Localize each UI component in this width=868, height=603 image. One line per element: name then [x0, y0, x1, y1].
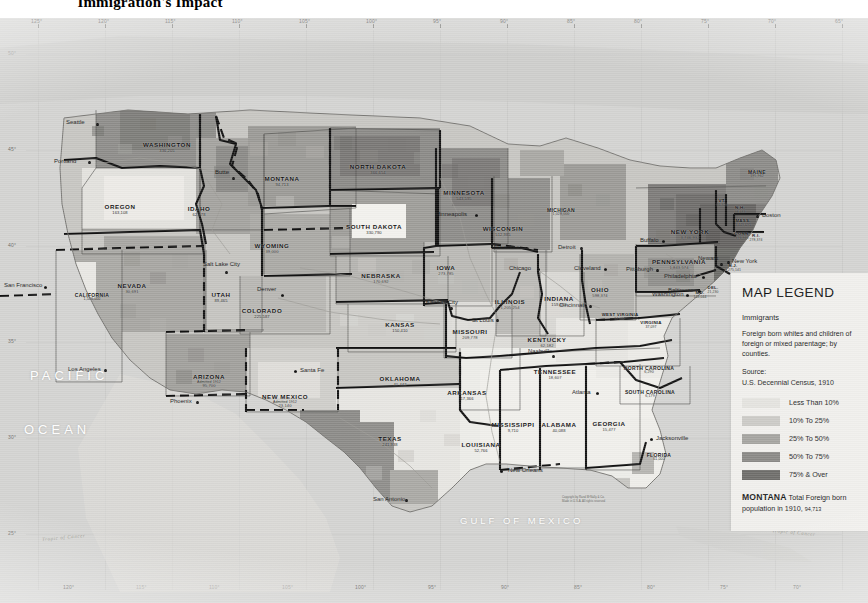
city-label-san-antonio: San Antonio — [373, 496, 405, 502]
city-label-new-orleans: New Orleans — [508, 467, 543, 473]
legend-subject: Immigrants — [742, 313, 857, 322]
legend-footnote: MONTANA Total Foreign born population in… — [742, 491, 857, 515]
state-label-north-carolina: NORTH CAROLINA6,290 — [611, 366, 687, 375]
legend-footnote-number: 94,713 — [805, 506, 822, 512]
legend-color-swatch — [742, 398, 780, 408]
state-foreign-born-population: 170,692 — [343, 280, 419, 284]
state-label-kansas: KANSAS150,410 — [362, 322, 438, 333]
gulf-of-mexico-label: GULF OF MEXICO — [460, 515, 583, 526]
state-foreign-born-population: 62,578 — [161, 213, 237, 217]
city-label-cincinnati: Cincinnati — [559, 302, 585, 308]
state-label-oregon: OREGON163,108 — [82, 204, 158, 215]
state-label-colorado: COLORADO225,587 — [224, 308, 300, 319]
city-label-newark: Newark — [698, 255, 718, 261]
state-foreign-born-population: 366,654 — [340, 171, 416, 175]
state-foreign-born-population: 225,587 — [224, 315, 300, 319]
city-marker-dot — [662, 240, 665, 243]
state-foreign-born-population: 52,766 — [443, 449, 519, 453]
state-label-california: CALIFORNIA1,586,000 — [54, 293, 130, 302]
legend-source-label: Source: — [742, 367, 857, 377]
city-label-new-york: New York — [732, 258, 757, 264]
legend-class-label: 10% To 25% — [789, 416, 829, 425]
state-foreign-born-population: 95,700 — [171, 384, 247, 388]
state-foreign-born-population: 37,097 — [613, 326, 689, 330]
state-foreign-born-population: 209,778 — [432, 336, 508, 340]
city-marker-dot — [698, 290, 701, 293]
city-marker-dot — [44, 286, 47, 289]
city-marker-dot — [475, 214, 478, 217]
state-foreign-born-population: 89,465 — [183, 299, 259, 303]
city-marker-dot — [496, 319, 499, 322]
state-label-n-j: N.J.1,275,141 — [695, 264, 771, 272]
state-label-idaho: IDAHO62,578 — [161, 206, 237, 217]
state-foreign-born-population: 241,938 — [352, 443, 428, 447]
state-foreign-born-population: 6,179 — [612, 395, 688, 399]
city-marker-dot — [650, 438, 653, 441]
state-label-iowa: IOWA273,785 — [408, 265, 484, 276]
state-foreign-born-population: 40,442 — [362, 383, 438, 387]
legend-color-swatch — [742, 416, 780, 426]
state-foreign-born-population: 195,962 — [719, 175, 795, 179]
city-marker-dot — [96, 123, 99, 126]
legend-source-value: U.S. Decennial Census, 1910 — [742, 378, 857, 388]
state-label-arizona: ARIZONAAdmitted 191295,700 — [171, 374, 247, 389]
city-label-butte: Butte — [215, 169, 229, 175]
state-label-michigan: MICHIGAN1,028,000 — [523, 208, 599, 217]
state-label-florida: FLORIDA61,000 — [621, 453, 697, 462]
city-label-milwaukee: Milwaukee — [491, 244, 519, 250]
city-marker-dot — [450, 307, 453, 310]
ocean-label-ocean: OCEAN — [24, 422, 90, 437]
map-plate: 125°120°115°110°105°100°95°90°85°80°75°7… — [0, 18, 868, 603]
state-foreign-born-population: 273,785 — [408, 272, 484, 276]
state-foreign-born-population: 598,374 — [562, 294, 638, 298]
city-marker-dot — [537, 268, 540, 271]
legend-color-swatch — [742, 470, 780, 480]
state-foreign-born-population: 150,410 — [362, 329, 438, 333]
city-label-chicago: Chicago — [509, 265, 531, 271]
legend-source: Source: U.S. Decennial Census, 1910 — [742, 367, 857, 387]
city-marker-dot — [232, 177, 235, 180]
state-foreign-born-population: 1,275,141 — [695, 269, 771, 273]
city-label-denver: Denver — [257, 286, 276, 292]
state-label-ohio: OHIO598,374 — [562, 287, 638, 298]
copyright-line-2: Made in U.S.A. All rights reserved — [562, 500, 605, 504]
city-label-minneapolis: Minneapolis — [435, 211, 467, 217]
state-foreign-born-population: 61,000 — [621, 458, 697, 462]
city-label-philadelphia: Philadelphia — [664, 273, 697, 279]
state-label-wyoming: WYOMING39,000 — [234, 243, 310, 254]
city-marker-dot — [281, 294, 284, 297]
city-marker-dot — [294, 370, 297, 373]
map-legend: MAP LEGEND Immigrants Foreign born white… — [731, 273, 868, 531]
state-foreign-born-population: 1,586,000 — [54, 298, 130, 302]
legend-class-label: 50% To 75% — [789, 452, 829, 461]
city-marker-dot — [500, 470, 503, 473]
state-foreign-born-population: 17,366 — [429, 397, 505, 401]
state-label-r-i: R.I.278,374 — [718, 234, 794, 242]
city-label-boston: Boston — [762, 212, 781, 218]
legend-heading: MAP LEGEND — [742, 285, 857, 300]
legend-class-list: Less Than 10%10% To 25%25% To 50%50% To … — [742, 395, 857, 483]
city-marker-dot — [596, 392, 599, 395]
state-foreign-born-population: 39,000 — [234, 250, 310, 254]
city-marker-dot — [656, 269, 659, 272]
state-foreign-born-population: 1,028,000 — [523, 213, 599, 217]
city-marker-dot — [720, 263, 723, 266]
state-label-tennessee: TENNESSEE18,607 — [517, 369, 593, 380]
state-foreign-born-population: 6,290 — [611, 371, 687, 375]
legend-color-swatch — [742, 452, 780, 462]
city-marker-dot — [589, 305, 592, 308]
state-label-wisconsin: WISCONSIN512,985 — [465, 226, 541, 237]
state-label-louisiana: LOUISIANA52,766 — [443, 442, 519, 453]
legend-class-row: 25% To 50% — [742, 431, 857, 447]
state-foreign-born-population: 1,449,695 — [705, 224, 781, 228]
state-label-utah: UTAH89,465 — [183, 292, 259, 303]
city-label-jacksonville: Jacksonville — [656, 435, 688, 441]
state-foreign-born-population: 512,985 — [465, 233, 541, 237]
city-marker-dot — [604, 268, 607, 271]
state-foreign-born-population: 18,607 — [517, 376, 593, 380]
state-foreign-born-population: 23,140 — [247, 404, 323, 408]
state-label-missouri: MISSOURI209,778 — [432, 329, 508, 340]
state-label-oklahoma: OKLAHOMA40,442 — [362, 376, 438, 387]
legend-description: Foreign born whites and children of fore… — [742, 329, 857, 359]
city-label-st-louis: St Louis — [472, 317, 494, 323]
